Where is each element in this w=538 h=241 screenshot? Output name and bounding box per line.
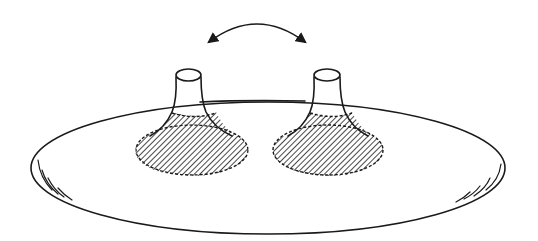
double-headed-arrow-icon (209, 24, 305, 42)
diagram-canvas (0, 0, 538, 241)
disc (31, 102, 505, 234)
disc-with-peaks-diagram (0, 0, 538, 241)
